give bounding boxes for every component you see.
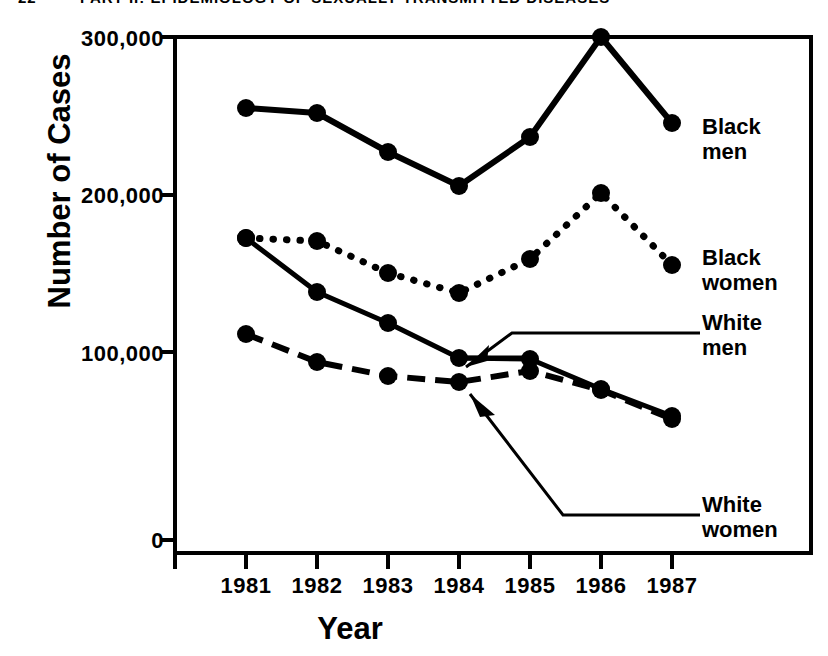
x-tick-label: 1981 (206, 573, 286, 599)
page-folio: 22 (0, 0, 36, 6)
x-tick-label: 1984 (419, 573, 499, 599)
x-axis-title: Year (0, 611, 700, 647)
x-tick-label: 1982 (277, 573, 357, 599)
x-tick-label: 1986 (561, 573, 641, 599)
running-head-title: PART II: EPIDEMIOLOGY OF SEXUALLY TRANSM… (36, 0, 610, 6)
x-axis-tick-labels: 1981 1982 1983 1984 1985 1986 1987 (0, 13, 828, 656)
x-tick-label: 1983 (348, 573, 428, 599)
x-tick-label: 1985 (490, 573, 570, 599)
line-chart: Number of Cases 300,000 200,000 100,000 … (0, 13, 828, 656)
running-head: 22PART II: EPIDEMIOLOGY OF SEXUALLY TRAN… (0, 0, 828, 13)
figure-page: 22PART II: EPIDEMIOLOGY OF SEXUALLY TRAN… (0, 0, 828, 656)
x-tick-label: 1987 (632, 573, 712, 599)
